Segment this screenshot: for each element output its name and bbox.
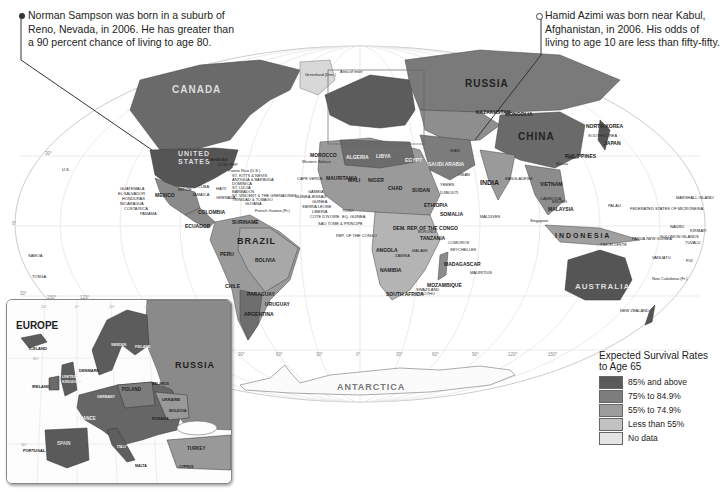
label-french-guiana: French Guiana (Fr.) <box>255 208 291 213</box>
svg-text:60°: 60° <box>432 352 439 357</box>
label-panama: PANAMA <box>140 211 157 216</box>
label-western-sahara: Western Sahara <box>302 159 332 164</box>
label-cuba: CUBA <box>198 184 209 189</box>
inset-label-turkey: TURKEY <box>187 446 206 451</box>
legend-title-line-1: Expected Survival Rates <box>599 350 714 361</box>
label-japan: JAPAN <box>604 140 621 146</box>
label-namibia: NAMIBIA <box>380 267 402 273</box>
label-paraguay: PARAGUAY <box>247 291 275 297</box>
inset-label-cyprus: CYPRUS <box>179 465 194 469</box>
label-burundi: BURUNDI <box>418 229 436 234</box>
label-palau: PALAU <box>608 203 621 208</box>
legend-title: Expected Survival Rates to Age 65 <box>599 350 714 372</box>
legend-swatch <box>599 418 623 431</box>
label-belize: BELIZE <box>178 187 192 192</box>
label-kiribati: KIRIBATI <box>690 228 706 233</box>
svg-text:20°: 20° <box>41 304 47 309</box>
label-togo: TOGO <box>342 208 354 213</box>
label-australia: AUSTRALIA <box>575 282 630 291</box>
label-fiji: FIJI <box>686 258 693 263</box>
label-tonga: TONGA <box>32 274 46 279</box>
label-tuvalu: TUVALU <box>685 240 701 245</box>
legend-item-75-84: 75% to 84.9% <box>599 389 714 403</box>
label-comoros: COMOROS <box>448 240 469 245</box>
callout-marker-icon <box>536 13 543 20</box>
svg-text:30°: 30° <box>45 151 52 156</box>
callout-left-line-3: a 90 percent chance of living to age 80. <box>28 36 258 50</box>
label-timor-leste: TIMOR-LESTE <box>600 242 627 247</box>
legend-item-less-55: Less than 55% <box>599 417 714 431</box>
svg-text:0°: 0° <box>12 221 17 226</box>
label-samoa: SAMOA <box>28 253 43 258</box>
legend-title-line-2: to Age 65 <box>599 361 714 372</box>
svg-text:30°: 30° <box>316 352 323 357</box>
label-antarctica: ANTARCTICA <box>337 382 405 392</box>
inset-label-belarus: BELARUS <box>152 382 170 386</box>
legend-label: Less than 55% <box>628 419 684 429</box>
svg-text:20°: 20° <box>109 304 115 309</box>
inset-label-iceland: ICELAND <box>29 346 47 351</box>
label-argentina: ARGENTINA <box>244 311 274 317</box>
label-greenland: Greenland (Den.) <box>305 72 337 77</box>
legend: Expected Survival Rates to Age 65 85% an… <box>599 350 714 445</box>
svg-text:0°: 0° <box>75 304 79 309</box>
label-libya: LIBYA <box>376 153 391 159</box>
label-morocco: MOROCCO <box>310 152 337 158</box>
landmass-europe <box>325 75 415 128</box>
svg-text:60°: 60° <box>276 352 283 357</box>
label-cote-divoire: COTE D'IVOIRE <box>310 214 340 219</box>
label-ethiopia: ETHIOPIA <box>424 202 448 208</box>
inset-iberia-shape <box>45 428 89 468</box>
inset-label-uk-2: KINGDOM <box>62 379 82 384</box>
label-mongolia: MONGOLIA <box>505 111 533 117</box>
label-guyana: GUYANA <box>245 201 262 206</box>
svg-text:40°: 40° <box>145 304 151 309</box>
label-new-zealand: NEW ZEALAND <box>620 308 649 313</box>
label-niger: NIGER <box>368 177 384 183</box>
landmass-greenland <box>300 60 335 95</box>
label-russia: RUSSIA <box>465 78 509 89</box>
label-chad: CHAD <box>388 185 403 191</box>
landmass-russia <box>405 50 620 112</box>
label-sudan: SUDAN <box>412 187 430 193</box>
label-tanzania: TANZANIA <box>420 235 446 241</box>
label-uruguay: URUGUAY <box>265 301 290 307</box>
callout-hamid-azimi: Hamid Azimi was born near Kabul, Afghani… <box>545 9 720 50</box>
legend-item-85-above: 85% and above <box>599 375 714 389</box>
inset-label-ireland: IRELAND <box>32 384 50 389</box>
label-vanuatu: VANUATU <box>652 255 671 260</box>
label-jamaica: JAMAICA <box>192 192 210 197</box>
svg-text:60°: 60° <box>33 356 39 361</box>
legend-item-55-74: 55% to 74.9% <box>599 403 714 417</box>
label-north-korea: NORTH KOREA <box>586 123 624 129</box>
label-us-hawaii: U.S. <box>62 167 70 172</box>
callout-norman-sampson: Norman Sampson was born in a suburb of R… <box>28 9 258 50</box>
label-haiti: HAITI <box>216 186 226 191</box>
svg-text:30°: 30° <box>396 352 403 357</box>
inset-label-moldova: MOLDOVA <box>169 409 187 413</box>
label-vietnam: VIETNAM <box>540 181 563 187</box>
landmass-india <box>480 150 515 200</box>
europe-inset-map: RUSSIA ICELAND IRELAND UNITED KINGDOM DE… <box>6 299 232 484</box>
label-yemen: YEMEN <box>440 182 454 187</box>
inset-label-poland: POLAND <box>122 387 142 392</box>
label-mexico: MEXICO <box>155 192 175 198</box>
label-united-states-2: STATES <box>178 158 211 165</box>
label-bolivia: BOLIVIA <box>255 257 276 263</box>
label-oman: OMAN <box>458 172 470 177</box>
svg-text:30°: 30° <box>20 291 27 296</box>
label-taiwan: Taiwan <box>566 155 578 160</box>
inset-label-finland: FINLAND <box>135 345 151 349</box>
callout-marker-icon <box>19 13 25 19</box>
label-iran: IRAN <box>450 148 460 153</box>
legend-swatch <box>599 432 623 445</box>
label-singapore: Singapore <box>530 218 549 223</box>
label-brazil: BRAZIL <box>237 236 276 246</box>
label-bangladesh: BANGLADESH <box>505 176 532 181</box>
inset-title: EUROPE <box>16 320 58 331</box>
legend-swatch <box>599 390 623 403</box>
legend-label: 85% and above <box>628 377 687 387</box>
inset-ireland-shape <box>49 376 59 390</box>
label-malaysia: MALAYSIA <box>548 206 574 212</box>
svg-text:0°: 0° <box>356 352 361 357</box>
